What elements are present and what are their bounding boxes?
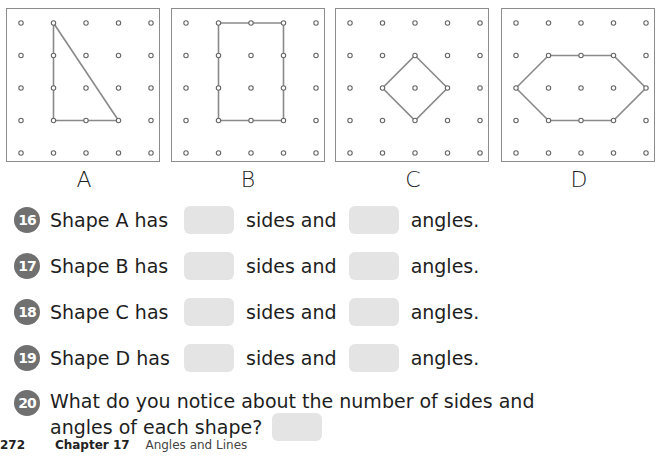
peg-dot (184, 86, 188, 90)
question-middle: sides and (246, 209, 337, 231)
peg-dot (314, 151, 318, 155)
chapter-title: Chapter 17 (55, 438, 130, 452)
observation-answer-box[interactable] (272, 413, 322, 441)
peg-dot (19, 118, 23, 122)
peg-dot (19, 86, 23, 90)
sides-answer-box[interactable] (184, 298, 234, 326)
question-number-badge: 17 (14, 253, 40, 279)
geoboard-b-drawing (172, 9, 324, 161)
peg-dot (216, 151, 220, 155)
question-number-badge: 18 (14, 299, 40, 325)
question-number-badge: 19 (14, 345, 40, 371)
rectangle-outline (219, 23, 284, 121)
peg-dot (611, 118, 615, 122)
peg-dot (281, 21, 285, 25)
peg-dot (314, 86, 318, 90)
question-16: 16 Shape A has sides and angles. (14, 206, 479, 234)
peg-dot (116, 21, 120, 25)
geoboard-b (171, 8, 325, 162)
peg-dot (216, 21, 220, 25)
peg-dot (184, 53, 188, 57)
peg-dot (348, 21, 352, 25)
peg-dot (579, 151, 583, 155)
shape-label-c: C (393, 167, 433, 192)
peg-dot (281, 86, 285, 90)
peg-dot (149, 53, 153, 57)
peg-dot (51, 53, 55, 57)
peg-dot (611, 86, 615, 90)
geoboard-a (6, 8, 160, 162)
peg-dot (380, 21, 384, 25)
peg-dot (546, 86, 550, 90)
peg-dot (149, 21, 153, 25)
question-suffix: angles. (411, 301, 480, 323)
peg-dot (644, 118, 648, 122)
peg-dot (281, 151, 285, 155)
angles-answer-box[interactable] (349, 298, 399, 326)
peg-dot (249, 151, 253, 155)
shape-label-b: B (228, 167, 268, 192)
peg-dot (546, 53, 550, 57)
question-suffix: angles. (411, 209, 480, 231)
peg-dot (314, 118, 318, 122)
angles-answer-box[interactable] (349, 206, 399, 234)
question-middle: sides and (246, 301, 337, 323)
angles-answer-box[interactable] (349, 252, 399, 280)
peg-dot (249, 118, 253, 122)
peg-dot (348, 118, 352, 122)
peg-dot (380, 86, 384, 90)
peg-dot (445, 118, 449, 122)
question-20-line2: angles of each shape? (50, 416, 262, 439)
peg-dot (84, 53, 88, 57)
peg-dot (644, 53, 648, 57)
peg-dot (579, 86, 583, 90)
geoboard-c (335, 8, 489, 162)
geoboard-d (501, 8, 655, 162)
peg-dot (380, 53, 384, 57)
peg-dot (51, 21, 55, 25)
question-prefix: Shape A has (50, 209, 184, 231)
peg-dot (546, 118, 550, 122)
peg-dot (51, 86, 55, 90)
question-suffix: angles. (411, 255, 480, 277)
peg-dot (149, 86, 153, 90)
question-18: 18 Shape C has sides and angles. (14, 298, 479, 326)
peg-dot (478, 21, 482, 25)
peg-dot (644, 151, 648, 155)
peg-dot (579, 21, 583, 25)
angles-answer-box[interactable] (349, 344, 399, 372)
peg-dot (478, 86, 482, 90)
sides-answer-box[interactable] (184, 252, 234, 280)
peg-dot (514, 86, 518, 90)
peg-dot (149, 118, 153, 122)
sides-answer-box[interactable] (184, 344, 234, 372)
peg-dot (579, 53, 583, 57)
peg-dot (116, 86, 120, 90)
peg-dot (445, 86, 449, 90)
question-19: 19 Shape D has sides and angles. (14, 344, 479, 372)
peg-dot (514, 53, 518, 57)
question-prefix: Shape D has (50, 347, 184, 369)
peg-dot (314, 21, 318, 25)
question-middle: sides and (246, 255, 337, 277)
question-number-badge: 16 (14, 207, 40, 233)
peg-dot (249, 86, 253, 90)
peg-dot (149, 151, 153, 155)
peg-dot (84, 118, 88, 122)
peg-dot (19, 151, 23, 155)
question-suffix: angles. (411, 347, 480, 369)
peg-dot (644, 21, 648, 25)
peg-dot (611, 151, 615, 155)
shape-label-a: A (64, 167, 104, 192)
peg-dot (84, 151, 88, 155)
peg-dot (84, 86, 88, 90)
page-number: 272 (0, 438, 25, 452)
peg-dot (514, 21, 518, 25)
peg-dot (51, 118, 55, 122)
shape-label-d: D (559, 167, 599, 192)
sides-answer-box[interactable] (184, 206, 234, 234)
peg-dot (514, 118, 518, 122)
question-prefix: Shape B has (50, 255, 184, 277)
peg-dot (611, 21, 615, 25)
peg-dot (413, 86, 417, 90)
